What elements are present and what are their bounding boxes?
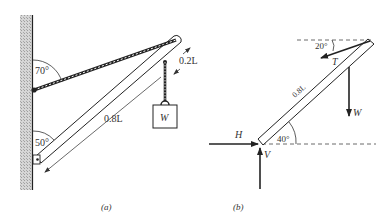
angle-label-70: 70° [35,65,49,76]
force-label-V: V [264,149,272,160]
angle-label-50: 50° [35,137,49,148]
angle-label-20: 20° [315,41,328,51]
panel-b: 20° T W H V 40° 0.8L (b) [209,39,376,212]
statics-diagram: 70° 50° 0.2L 0.8L W (a) 20° T W H V 40° … [0,0,388,223]
caption-a: (a) [101,202,112,212]
angle-arc-20 [332,40,334,51]
cable [31,40,176,93]
dimension-arrow-0.2L-lower [174,69,180,74]
dimension-arrow-0.2L-upper [183,48,190,54]
angle-arc-40 [289,122,296,144]
angle-label-40: 40° [277,134,290,144]
force-label-W: W [353,107,363,118]
dimension-label-0.8L: 0.8L [104,113,123,124]
cable-anchor [31,87,36,92]
dimension-arrow-0.8L [45,77,161,172]
caption-b: (b) [233,202,244,212]
pin [36,158,39,161]
panel-a: 70° 50° 0.2L 0.8L W (a) [20,15,198,212]
force-label-H: H [234,129,243,140]
dimension-label-0.2L: 0.2L [179,55,198,66]
beam [33,35,181,164]
force-label-T: T [332,56,339,67]
beam-free-body [258,39,374,145]
wall [20,15,33,190]
